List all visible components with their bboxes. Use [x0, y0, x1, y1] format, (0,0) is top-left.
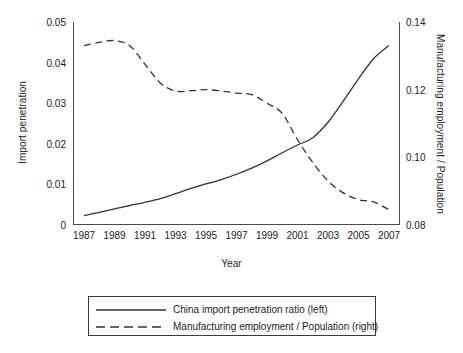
y-tick-right-0: 0.08 [406, 220, 425, 231]
legend-swatch-solid-icon [89, 305, 173, 315]
x-tick-4: 1995 [195, 230, 217, 241]
y-tick-right-2: 0.12 [406, 84, 425, 95]
legend-item-1: Manufacturing employment / Population (r… [89, 318, 377, 335]
legend-item-0: China import penetration ratio (left) [89, 301, 377, 318]
plot-area [73, 22, 400, 225]
y-tick-left-0: 0 [60, 220, 66, 231]
legend-label-1: Manufacturing employment / Population (r… [173, 321, 378, 332]
legend-label-0: China import penetration ratio (left) [173, 304, 328, 315]
y-tick-left-2: 0.02 [47, 138, 66, 149]
x-tick-8: 2003 [317, 230, 339, 241]
y-tick-left-4: 0.04 [47, 57, 66, 68]
x-tick-9: 2005 [347, 230, 369, 241]
series-line-0 [84, 46, 389, 216]
legend-swatch-dashed-icon [89, 322, 173, 332]
x-tick-1: 1989 [103, 230, 125, 241]
x-tick-10: 2007 [378, 230, 400, 241]
x-tick-2: 1991 [134, 230, 156, 241]
series-line-1 [84, 40, 389, 209]
y-tick-left-1: 0.01 [47, 179, 66, 190]
data-series [84, 40, 389, 215]
chart-legend: China import penetration ratio (left) Ma… [88, 296, 376, 336]
axis-frame [73, 22, 400, 225]
chart-figure: Import penetration Manufacturing employm… [0, 0, 463, 353]
x-tick-7: 2001 [286, 230, 308, 241]
tick-marks [73, 22, 400, 225]
y-tick-right-3: 0.14 [406, 17, 425, 28]
x-tick-0: 1987 [73, 230, 95, 241]
x-axis-title: Year [0, 258, 463, 269]
y-tick-left-3: 0.03 [47, 98, 66, 109]
x-tick-5: 1997 [225, 230, 247, 241]
x-tick-6: 1999 [256, 230, 278, 241]
y-tick-right-1: 0.10 [406, 152, 425, 163]
y-axis-left-ticks: 00.010.020.030.040.05 [26, 0, 66, 353]
x-tick-3: 1993 [164, 230, 186, 241]
y-axis-right-ticks: 0.080.100.120.14 [406, 0, 450, 353]
y-tick-left-5: 0.05 [47, 17, 66, 28]
plot-canvas [73, 22, 400, 225]
